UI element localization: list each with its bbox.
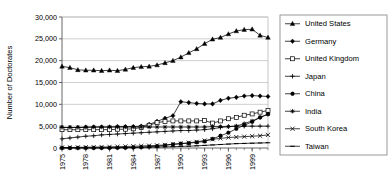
marker-asterisk: [60, 125, 64, 129]
marker-asterisk: [76, 125, 80, 129]
legend-label: Japan: [305, 72, 326, 81]
chart-canvas: 05,00010,00015,00020,00025,00030,0001975…: [0, 0, 391, 187]
marker-square: [226, 117, 230, 121]
marker-plus: [266, 124, 271, 129]
marker-square: [195, 119, 199, 123]
y-tick-label: 10,000: [35, 100, 57, 109]
legend: United StatesGermanyUnited KingdomJapanC…: [280, 15, 387, 155]
marker-asterisk: [226, 124, 230, 128]
marker-diamond: [266, 94, 270, 99]
y-tick-label: 15,000: [35, 78, 57, 87]
marker-plus: [83, 134, 88, 139]
marker-diamond: [234, 95, 238, 100]
marker-diamond: [226, 96, 230, 101]
marker-square: [179, 119, 183, 123]
y-tick-label: 5,000: [39, 122, 57, 131]
legend-label: United States: [305, 19, 351, 28]
marker-plus: [258, 124, 263, 129]
marker-diamond: [250, 93, 254, 98]
marker-square: [234, 115, 238, 119]
x-tick-label: 1987: [153, 154, 162, 170]
marker-asterisk: [242, 121, 246, 125]
doctorates-line-chart: 05,00010,00015,00020,00025,00030,0001975…: [0, 0, 391, 187]
marker-triangle: [202, 41, 207, 45]
marker-asterisk: [202, 125, 206, 129]
series-united-states: [60, 27, 271, 73]
x-tick-label: 1981: [105, 154, 114, 170]
marker-asterisk: [115, 125, 119, 129]
marker-asterisk: [290, 109, 294, 113]
marker-plus: [131, 131, 136, 136]
marker-asterisk: [84, 125, 88, 129]
marker-plus: [68, 136, 73, 141]
marker-asterisk: [131, 125, 135, 129]
marker-plus: [107, 132, 112, 137]
marker-asterisk: [68, 125, 72, 129]
x-tick-label: 1990: [176, 154, 185, 170]
marker-asterisk: [155, 125, 159, 129]
marker-diamond: [195, 101, 199, 106]
marker-circle: [226, 131, 230, 135]
marker-square: [203, 118, 207, 122]
marker-asterisk: [194, 125, 198, 129]
marker-plus: [171, 129, 176, 134]
marker-diamond: [179, 99, 183, 104]
marker-plus: [60, 137, 65, 142]
marker-diamond: [242, 94, 246, 99]
x-tick-label: 1993: [200, 154, 209, 170]
marker-square: [266, 108, 270, 112]
y-axis-title: Number of Doctorates: [5, 46, 14, 120]
marker-square: [155, 121, 159, 125]
marker-asterisk: [147, 125, 151, 129]
marker-triangle: [179, 55, 184, 59]
marker-diamond: [258, 94, 262, 99]
marker-plus: [147, 130, 152, 135]
marker-square: [171, 119, 175, 123]
y-tick-label: 30,000: [35, 13, 57, 22]
x-tick-label: 1978: [81, 154, 90, 170]
marker-diamond: [218, 98, 222, 103]
marker-triangle: [107, 68, 112, 72]
marker-diamond: [171, 113, 175, 118]
legend-label: United Kingdom: [305, 54, 359, 63]
x-tick-label: 1996: [224, 154, 233, 170]
marker-asterisk: [123, 125, 127, 129]
marker-plus: [76, 135, 81, 140]
y-axis: 05,00010,00015,00020,00025,00030,000: [35, 13, 62, 153]
marker-plus: [123, 131, 128, 136]
x-tick-label: 1999: [248, 154, 257, 170]
marker-square: [250, 112, 254, 116]
marker-square: [218, 119, 222, 123]
marker-plus: [115, 132, 120, 137]
marker-square: [291, 57, 295, 61]
marker-asterisk: [234, 124, 238, 128]
marker-triangle: [218, 35, 223, 39]
y-tick-label: 0: [53, 144, 57, 153]
marker-asterisk: [171, 125, 175, 129]
x-tick-label: 1975: [58, 154, 67, 170]
marker-triangle: [250, 27, 255, 31]
series-layer: [60, 27, 271, 150]
y-tick-label: 25,000: [35, 34, 57, 43]
marker-square: [242, 113, 246, 117]
marker-asterisk: [258, 115, 262, 119]
marker-plus: [155, 130, 160, 135]
marker-triangle: [186, 50, 191, 54]
legend-label: South Korea: [305, 124, 348, 133]
marker-diamond: [210, 102, 214, 107]
marker-asterisk: [187, 125, 191, 129]
marker-asterisk: [139, 125, 143, 129]
marker-square: [258, 110, 262, 114]
x-tick-label: 1984: [129, 154, 138, 170]
marker-triangle: [60, 64, 65, 68]
marker-plus: [91, 133, 96, 138]
marker-asterisk: [218, 124, 222, 128]
legend-label: Germany: [305, 37, 336, 46]
x-axis: 197519781981198419871990199319961999: [58, 148, 268, 170]
marker-square: [163, 119, 167, 123]
marker-triangle: [194, 46, 199, 50]
marker-asterisk: [210, 124, 214, 128]
marker-plus: [99, 133, 104, 138]
marker-asterisk: [91, 125, 95, 129]
series-germany: [60, 93, 270, 129]
